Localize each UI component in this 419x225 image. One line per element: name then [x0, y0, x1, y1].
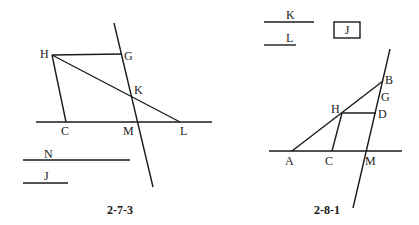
label-C: C	[61, 124, 69, 138]
label-M: M	[123, 124, 134, 138]
label-H: H	[331, 102, 340, 116]
figure-caption: 2-7-3	[107, 203, 133, 217]
label-J: J	[44, 169, 49, 183]
label-J-boxed: J	[345, 23, 350, 37]
label-A: A	[285, 154, 294, 168]
label-K: K	[134, 83, 143, 97]
label-C: C	[325, 154, 333, 168]
segment-HL	[52, 55, 180, 122]
figure-2-8-1: J K L B G H D A C M 2-8-1	[264, 8, 402, 217]
label-G: G	[124, 49, 133, 63]
label-L: L	[286, 31, 293, 45]
label-N: N	[44, 147, 53, 161]
segment-HC	[52, 55, 66, 122]
label-M: M	[365, 154, 376, 168]
label-B: B	[385, 73, 393, 87]
geometry-canvas: H G K C M L N J 2-7-3 J K L B G H D A C …	[0, 0, 419, 225]
label-L: L	[180, 124, 187, 138]
label-G: G	[381, 90, 390, 104]
figure-2-7-3: H G K C M L N J 2-7-3	[23, 23, 212, 217]
label-K: K	[286, 8, 295, 22]
label-H: H	[40, 47, 49, 61]
segment-HG	[52, 54, 122, 55]
figure-caption: 2-8-1	[314, 203, 340, 217]
label-D: D	[378, 107, 387, 121]
